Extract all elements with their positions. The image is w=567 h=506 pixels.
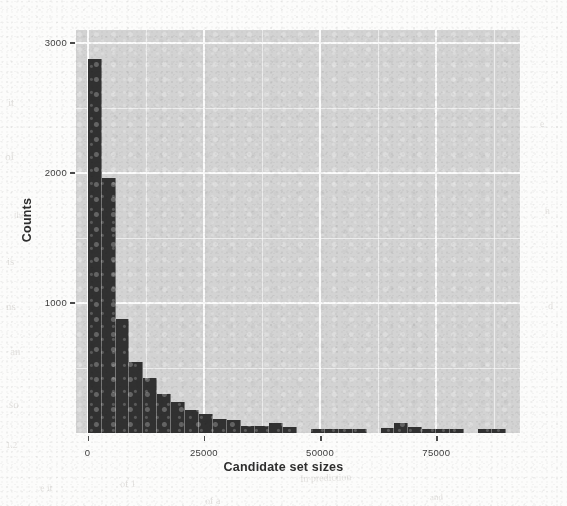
- histogram-bar: [116, 319, 130, 433]
- y-tick-label: 1000: [23, 297, 67, 308]
- histogram-bar: [450, 429, 464, 433]
- histogram-bar: [143, 378, 157, 433]
- histogram-bar: [408, 427, 422, 433]
- histogram-bar: [394, 423, 408, 433]
- histogram-bar: [255, 426, 269, 433]
- x-tick-label: 0: [58, 447, 118, 458]
- histogram-bar: [171, 402, 185, 433]
- x-tick-mark: [88, 436, 90, 441]
- histogram-bar: [311, 429, 325, 433]
- histogram-bar: [492, 429, 506, 433]
- histogram-bar: [241, 426, 255, 433]
- histogram-bar: [199, 414, 213, 434]
- histogram-bar: [88, 59, 102, 433]
- y-axis-title: Counts: [20, 160, 34, 280]
- x-tick-label: 50000: [290, 447, 350, 458]
- plot-panel: [76, 30, 520, 433]
- histogram-bar: [353, 429, 367, 433]
- x-tick-label: 75000: [406, 447, 466, 458]
- histogram-bar: [422, 429, 436, 433]
- histogram-bar: [129, 362, 143, 434]
- histogram-bar: [213, 419, 227, 433]
- histogram-bar: [227, 420, 241, 433]
- x-tick-mark: [436, 436, 438, 441]
- x-tick-mark: [320, 436, 322, 441]
- y-tick-mark: [70, 42, 75, 44]
- histogram-bar: [339, 429, 353, 433]
- y-tick-mark: [70, 302, 75, 304]
- histogram-bars: [76, 30, 520, 433]
- histogram-bar: [436, 429, 450, 433]
- histogram-bar: [102, 178, 116, 433]
- histogram-bar: [478, 429, 492, 433]
- histogram-figure: 100020003000 0250005000075000 Candidate …: [0, 0, 567, 506]
- histogram-bar: [185, 410, 199, 433]
- histogram-bar: [269, 423, 283, 433]
- histogram-bar: [381, 428, 395, 433]
- x-tick-label: 25000: [174, 447, 234, 458]
- histogram-bar: [325, 429, 339, 433]
- y-tick-label: 3000: [23, 37, 67, 48]
- histogram-bar: [157, 394, 171, 433]
- y-tick-mark: [70, 172, 75, 174]
- histogram-bar: [283, 427, 297, 434]
- x-tick-mark: [204, 436, 206, 441]
- x-axis-title: Candidate set sizes: [0, 460, 567, 474]
